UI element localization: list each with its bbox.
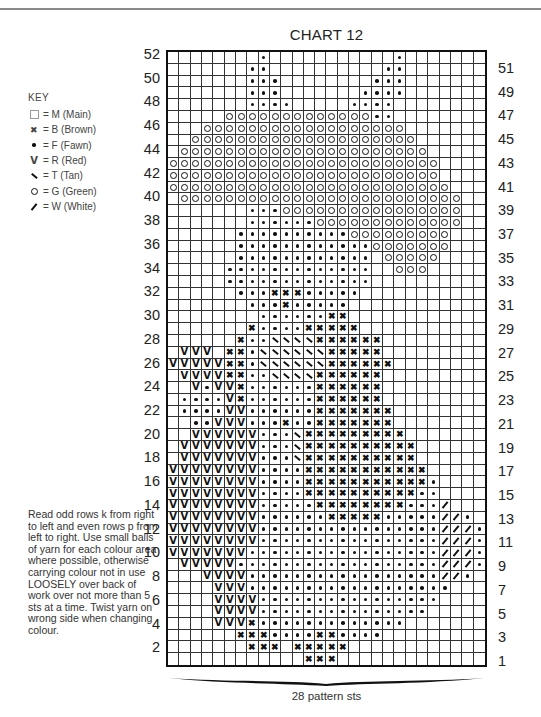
stitch-cell-main xyxy=(372,653,383,665)
stitch-cell-main xyxy=(168,618,179,630)
stitch-cell-main xyxy=(462,606,473,618)
stitch-cell-main xyxy=(428,276,439,288)
stitch-cell-main xyxy=(474,571,485,583)
stitch-cell-main xyxy=(428,347,439,359)
stitch-cell-fawn xyxy=(247,417,258,429)
stitch-cell-green xyxy=(372,217,383,229)
stitch-cell-fawn xyxy=(259,300,270,312)
stitch-cell-main xyxy=(474,653,485,665)
stitch-cell-red xyxy=(202,476,213,488)
row-number: 49 xyxy=(498,84,528,100)
stitch-cell-main xyxy=(462,370,473,382)
stitch-cell-brown xyxy=(349,406,360,418)
stitch-cell-brown xyxy=(315,630,326,642)
stitch-cell-brown xyxy=(383,417,394,429)
stitch-cell-fawn xyxy=(315,300,326,312)
stitch-cell-green xyxy=(406,252,417,264)
stitch-cell-main xyxy=(168,441,179,453)
stitch-cell-fawn xyxy=(326,594,337,606)
stitch-cell-red xyxy=(225,465,236,477)
stitch-cell-main xyxy=(202,300,213,312)
stitch-cell-main xyxy=(440,476,451,488)
stitch-cell-main xyxy=(474,429,485,441)
stitch-cell-tan xyxy=(270,335,281,347)
stitch-cell-green xyxy=(372,193,383,205)
stitch-cell-green xyxy=(304,111,315,123)
stitch-cell-main xyxy=(451,394,462,406)
stitch-cell-fawn xyxy=(304,547,315,559)
stitch-cell-main xyxy=(236,641,247,653)
stitch-cell-main xyxy=(462,465,473,477)
stitch-cell-brown xyxy=(360,417,371,429)
stitch-cell-tan xyxy=(281,359,292,371)
stitch-cell-main xyxy=(406,417,417,429)
stitch-cell-brown xyxy=(383,453,394,465)
stitch-cell-main xyxy=(394,370,405,382)
stitch-cell-main xyxy=(440,252,451,264)
stitch-cell-main xyxy=(451,229,462,241)
stitch-cell-red xyxy=(191,382,202,394)
row-number: 37 xyxy=(498,226,528,242)
stitch-cell-red xyxy=(225,535,236,547)
row-number: 6 xyxy=(130,592,160,608)
stitch-cell-main xyxy=(191,335,202,347)
stitch-cell-fawn xyxy=(270,417,281,429)
stitch-cell-fawn xyxy=(270,87,281,99)
stitch-cell-main xyxy=(417,64,428,76)
stitch-cell-fawn xyxy=(270,382,281,394)
stitch-cell-brown xyxy=(394,453,405,465)
stitch-cell-red xyxy=(213,535,224,547)
stitch-cell-fawn xyxy=(304,300,315,312)
stitch-cell-fawn xyxy=(236,252,247,264)
stitch-cell-main xyxy=(440,641,451,653)
stitch-cell-main xyxy=(462,264,473,276)
stitch-cell-main xyxy=(440,618,451,630)
stitch-cell-main xyxy=(338,64,349,76)
stitch-cell-main xyxy=(428,146,439,158)
stitch-cell-brown xyxy=(315,488,326,500)
stitch-cell-main xyxy=(417,111,428,123)
stitch-cell-fawn xyxy=(202,382,213,394)
stitch-cell-red xyxy=(236,594,247,606)
stitch-cell-main xyxy=(462,417,473,429)
stitch-cell-fawn xyxy=(270,488,281,500)
stitch-cell-red xyxy=(225,417,236,429)
stitch-cell-fawn xyxy=(259,488,270,500)
stitch-cell-fawn xyxy=(338,630,349,642)
stitch-cell-brown xyxy=(326,453,337,465)
stitch-cell-red xyxy=(213,571,224,583)
stitch-cell-main xyxy=(440,653,451,665)
stitch-cell-fawn xyxy=(383,512,394,524)
stitch-cell-fawn xyxy=(304,252,315,264)
stitch-cell-fawn xyxy=(360,524,371,536)
stitch-cell-fawn xyxy=(247,347,258,359)
stitch-cell-green xyxy=(417,170,428,182)
stitch-cell-red xyxy=(213,524,224,536)
stitch-cell-main xyxy=(417,618,428,630)
stitch-cell-main xyxy=(451,52,462,64)
stitch-cell-red xyxy=(202,500,213,512)
stitch-cell-green xyxy=(349,205,360,217)
stitch-cell-main xyxy=(383,300,394,312)
stitch-cell-green xyxy=(326,111,337,123)
stitch-cell-brown xyxy=(338,347,349,359)
stitch-cell-fawn xyxy=(213,406,224,418)
stitch-cell-fawn xyxy=(349,535,360,547)
stitch-cell-green xyxy=(372,241,383,253)
stitch-cell-fawn xyxy=(394,547,405,559)
stitch-cell-brown xyxy=(315,382,326,394)
stitch-cell-main xyxy=(451,311,462,323)
stitch-cell-fawn xyxy=(474,535,485,547)
stitch-cell-fawn xyxy=(304,288,315,300)
stitch-cell-fawn xyxy=(372,111,383,123)
stitch-cell-green xyxy=(440,205,451,217)
stitch-cell-fawn xyxy=(225,276,236,288)
stitch-cell-red xyxy=(247,500,258,512)
stitch-cell-main xyxy=(451,653,462,665)
stitch-cell-green xyxy=(349,170,360,182)
stitch-cell-fawn xyxy=(293,217,304,229)
stitch-cell-green xyxy=(247,123,258,135)
stitch-cell-fawn xyxy=(474,559,485,571)
stitch-cell-main xyxy=(213,111,224,123)
stitch-cell-fawn xyxy=(247,99,258,111)
